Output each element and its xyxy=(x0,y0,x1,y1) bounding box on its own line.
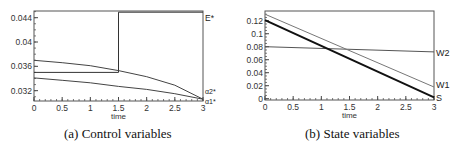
y-tick-label: 0.036 xyxy=(11,61,33,71)
x-tick-label: 0.5 xyxy=(56,103,68,113)
x-tick-label: 2.5 xyxy=(169,103,181,113)
series-label: S xyxy=(436,93,442,103)
caption-state-variables: (b) State variables xyxy=(305,126,400,142)
series-label: α1* xyxy=(205,98,216,105)
control-variables-chart: 00.511.522.53time0.0320.0360.040.044E*α2… xyxy=(0,0,232,125)
state-variables-plot: 00.511.522.53time00.020.040.060.080.10.1… xyxy=(231,0,463,125)
state-variables-chart: 00.511.522.53time00.020.040.060.080.10.1… xyxy=(231,0,463,125)
series-label: W1 xyxy=(436,80,450,90)
x-tick-label: 0.5 xyxy=(287,102,299,112)
series-label: E* xyxy=(205,13,215,23)
series-label: α2* xyxy=(205,88,216,95)
y-tick-label: 0.02 xyxy=(246,81,263,91)
y-tick-label: 0.12 xyxy=(246,16,263,26)
series-line-w1 xyxy=(265,14,434,87)
series-line-s xyxy=(265,20,434,97)
x-tick-label: 2.5 xyxy=(400,102,412,112)
x-axis-label: time xyxy=(111,112,127,121)
caption-control-variables: (a) Control variables xyxy=(64,126,172,142)
y-tick-label: 0.04 xyxy=(15,37,32,47)
x-tick-label: 2 xyxy=(375,102,380,112)
y-tick-label: 0.1 xyxy=(251,29,263,39)
x-tick-label: 0 xyxy=(263,102,268,112)
x-tick-label: 1 xyxy=(88,103,93,113)
y-tick-label: 0.04 xyxy=(246,68,263,78)
y-tick-label: 0.06 xyxy=(246,55,263,65)
x-axis-label: time xyxy=(342,111,358,120)
x-tick-label: 2 xyxy=(144,103,149,113)
series-label: W2 xyxy=(436,48,450,58)
control-variables-plot: 00.511.522.53time0.0320.0360.040.044E*α2… xyxy=(0,0,232,125)
x-tick-label: 1 xyxy=(319,102,324,112)
y-tick-label: 0 xyxy=(258,94,263,104)
y-tick-label: 0.044 xyxy=(11,13,33,23)
series-line-e xyxy=(34,12,203,72)
x-tick-label: 3 xyxy=(432,102,437,112)
series-line-1 xyxy=(34,78,203,99)
y-tick-label: 0.08 xyxy=(246,42,263,52)
y-tick-label: 0.032 xyxy=(11,86,33,96)
x-tick-label: 0 xyxy=(32,103,37,113)
